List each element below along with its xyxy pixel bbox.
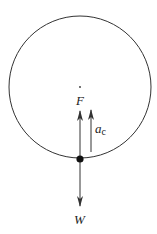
object-mass bbox=[76, 155, 83, 162]
acceleration-subscript: c bbox=[102, 126, 107, 137]
weight-arrow bbox=[77, 159, 83, 207]
acceleration-arrow bbox=[88, 109, 94, 152]
acceleration-label: ac bbox=[95, 121, 107, 137]
force-f-label: F bbox=[75, 93, 85, 108]
free-body-diagram: F ac W bbox=[0, 0, 157, 234]
force-f-arrow bbox=[77, 110, 83, 159]
center-point bbox=[79, 86, 81, 88]
weight-label: W bbox=[74, 212, 86, 227]
